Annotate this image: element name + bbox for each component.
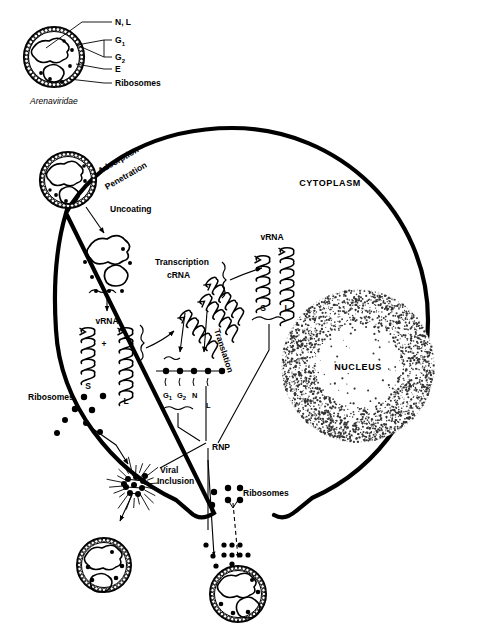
ribosome-incorporation-arrow <box>233 503 238 558</box>
plus-sign: + <box>102 339 107 349</box>
product-label-g2: G2 <box>177 391 187 401</box>
brace-vrna-pair <box>140 325 144 361</box>
inset-family-name: Arenaviridae <box>29 96 78 106</box>
progeny-l-label: L <box>284 303 289 313</box>
progeny-vrna-l-helix <box>279 248 294 326</box>
inset-label-nl: N, L <box>115 17 131 27</box>
cytoplasm-label: CYTOPLASM <box>299 178 361 188</box>
inclusion-to-bud-arrow <box>120 495 132 521</box>
rnp-label: RNP <box>212 442 230 452</box>
polysome-product-ticks <box>165 378 208 386</box>
vrna-released-label: vRNA <box>95 316 118 326</box>
inset-label-g2: G2 <box>115 52 126 64</box>
figure-canvas: N, L G1 G2 E Ribosomes Arenaviridae NUCL… <box>0 0 482 644</box>
inset-label-ribosomes: Ribosomes <box>115 78 161 88</box>
brace-polysome-top-left <box>164 357 180 360</box>
arenaviridae-replication-diagram: N, L G1 G2 E Ribosomes Arenaviridae NUCL… <box>0 0 482 644</box>
viral-inclusion-label-line2: Inclusion <box>157 476 194 486</box>
viral-inclusion-core <box>121 473 148 497</box>
inset-label-g1: G1 <box>115 35 126 47</box>
inset-virion-group: N, L G1 G2 E Ribosomes Arenaviridae <box>24 17 161 106</box>
uncoating-arrow <box>86 207 104 233</box>
budding-virion-left <box>77 538 131 592</box>
product-label-g1: G1 <box>163 391 173 401</box>
inset-label-e: E <box>115 64 121 74</box>
nucleus-group: NUCLEUS <box>282 289 435 443</box>
ribosome-pool-right-dots <box>209 485 243 508</box>
ribosomes-right-label: Ribosomes <box>243 488 289 498</box>
polysome-group: G1 G2 N L <box>156 357 225 441</box>
inset-nucleocapsid-lower <box>43 65 64 83</box>
progeny-s-label: S <box>260 303 266 313</box>
vrna-segment-l-helix <box>118 328 133 406</box>
vrna-s-label: S <box>85 381 91 391</box>
crna-label: cRNA <box>167 270 190 280</box>
viral-inclusion-group <box>107 457 158 511</box>
progeny-vrna-label: vRNA <box>260 232 283 242</box>
uncoating-label: Uncoating <box>110 204 152 214</box>
brace-products <box>163 407 193 410</box>
vrna-segment-s-helix <box>80 328 95 385</box>
ribosomes-left-label: Ribosomes <box>28 392 74 402</box>
entering-virion-ribosomes <box>48 164 87 203</box>
nucleus-label: NUCLEUS <box>334 362 382 372</box>
entering-virion-group <box>40 152 96 208</box>
products-to-inclusion-line <box>178 413 200 441</box>
budding-site-ribosome-dots <box>203 542 250 568</box>
product-label-n: N <box>192 391 197 400</box>
vrna-l-label: L <box>123 396 128 406</box>
product-label-l: L <box>206 401 211 410</box>
viral-inclusion-label-line1: Viral <box>160 465 178 475</box>
brace-progeny <box>252 317 285 320</box>
budding-virion-center <box>210 566 266 622</box>
transcription-arrow <box>146 331 174 348</box>
transcription-label: Transcription <box>155 257 209 267</box>
